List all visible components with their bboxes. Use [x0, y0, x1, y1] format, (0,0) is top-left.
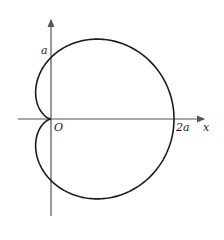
cardioid-figure: a O 2a x — [0, 0, 224, 240]
label-x: x — [203, 122, 209, 133]
cardioid-plot — [0, 0, 224, 240]
label-a: a — [41, 45, 48, 56]
label-2a: 2a — [176, 122, 190, 133]
label-origin: O — [54, 122, 63, 133]
